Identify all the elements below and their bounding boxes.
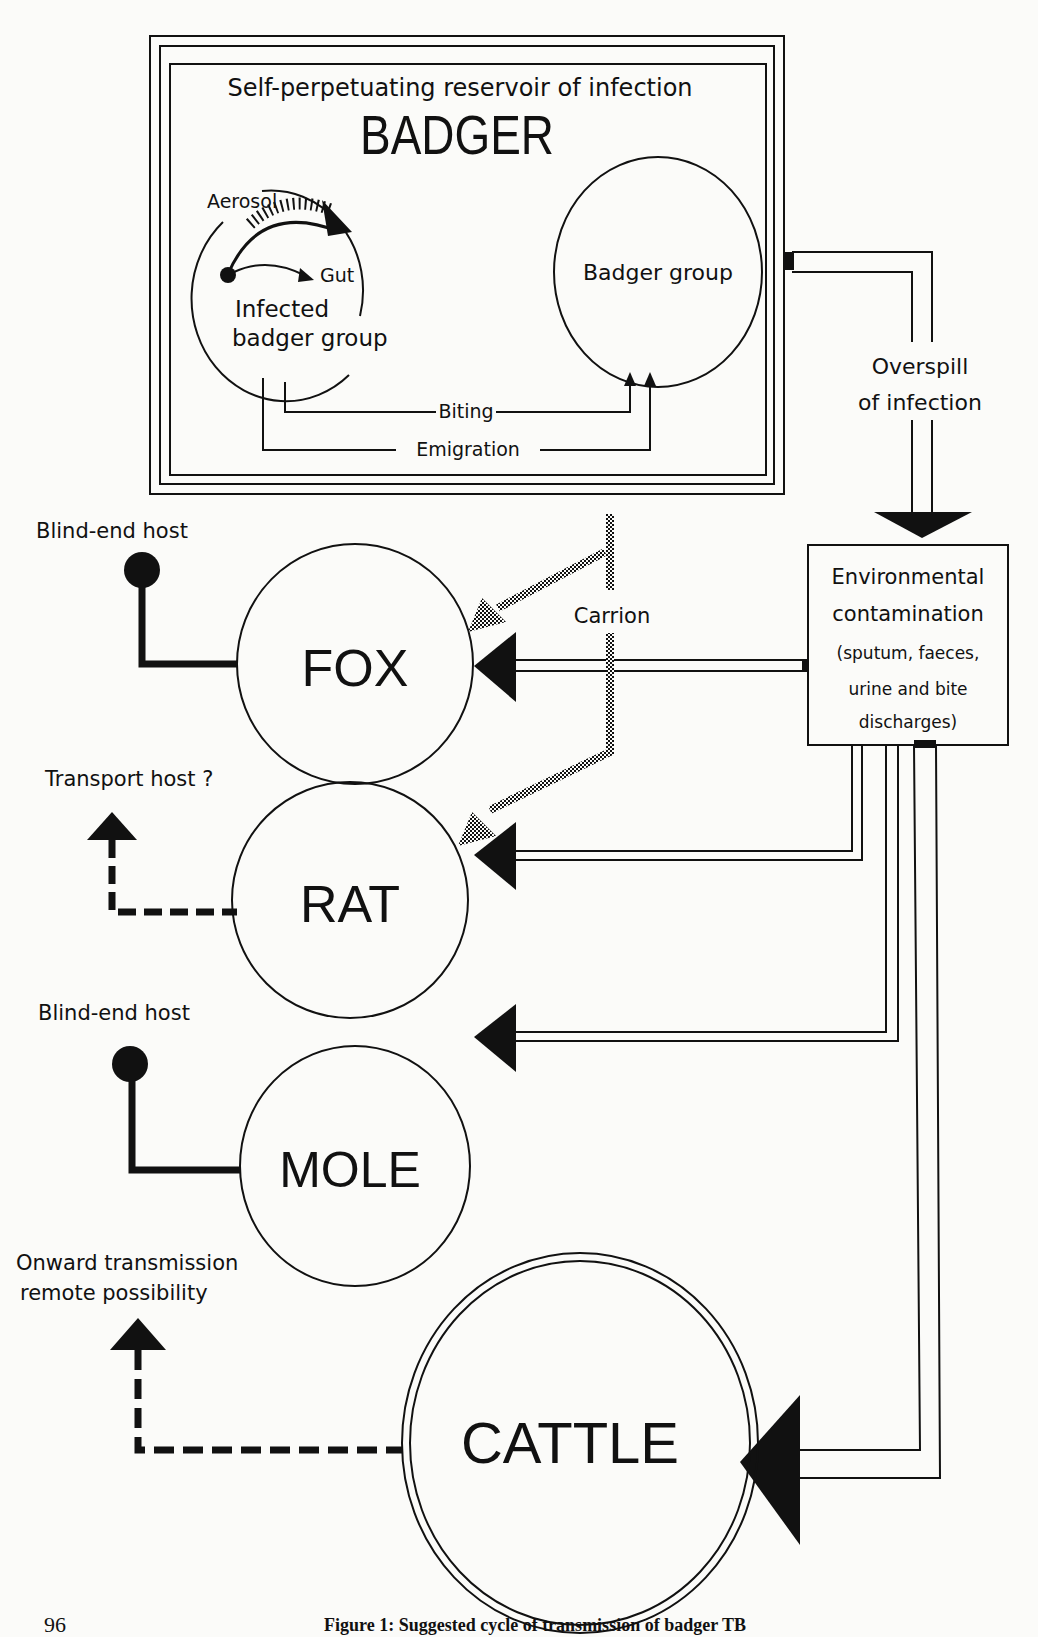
overspill-arrowhead	[874, 512, 972, 538]
env-to-fox-line	[516, 660, 808, 671]
emigration-label: Emigration	[416, 438, 520, 460]
badger-title: BADGER	[360, 104, 554, 166]
page-number: 96	[44, 1612, 66, 1637]
tb-transmission-diagram: Self-perpetuating reservoir of infection…	[0, 0, 1038, 1637]
fox-role-label: Blind-end host	[36, 519, 188, 543]
gut-arrow	[234, 265, 314, 282]
mole-label: MOLE	[279, 1142, 421, 1198]
env-label-2: contamination	[832, 602, 984, 626]
env-label-4: urine and bite	[848, 679, 967, 699]
overspill-arrow	[784, 252, 932, 512]
carrion-rat-arrowhead	[458, 812, 496, 846]
env-label-3: (sputum, faeces,	[837, 643, 980, 663]
fox-label: FOX	[302, 639, 409, 697]
cattle-onward-link	[138, 1350, 402, 1450]
env-to-mole-line	[516, 745, 898, 1041]
mole-role-label: Blind-end host	[38, 1001, 190, 1025]
aerosol-label: Aerosol	[207, 190, 277, 212]
mole-blind-end-link	[132, 1078, 240, 1170]
transport-up-arrow-icon	[87, 812, 137, 840]
fox-blind-end-link	[142, 585, 237, 664]
rat-label: RAT	[300, 875, 400, 933]
env-to-rat-line	[516, 745, 862, 860]
env-label-1: Environmental	[832, 565, 985, 589]
overspill-label-1: Overspill	[872, 354, 969, 379]
blind-end-fox-icon	[124, 552, 160, 588]
biting-label: Biting	[438, 400, 493, 422]
onward-up-arrow-icon	[110, 1318, 166, 1350]
blind-end-mole-icon	[112, 1046, 148, 1082]
infected-label-2: badger group	[232, 325, 388, 351]
figure-caption: Figure 1: Suggested cycle of transmissio…	[324, 1615, 746, 1635]
overspill-label-2: of infection	[858, 390, 982, 415]
biting-arrowhead	[624, 372, 636, 386]
fox-arrowhead	[474, 632, 516, 702]
rat-transport-link	[112, 840, 237, 912]
mole-arrowhead	[474, 1004, 516, 1072]
infection-source-dot	[220, 267, 236, 283]
reservoir-subtitle: Self-perpetuating reservoir of infection	[227, 74, 692, 102]
rat-role-label: Transport host ?	[44, 767, 213, 791]
cattle-role-label-2: remote possibility	[20, 1281, 208, 1305]
carrion-label: Carrion	[574, 604, 650, 628]
badger-group-label: Badger group	[583, 260, 733, 285]
infected-label-1: Infected	[235, 296, 329, 322]
cattle-role-label-1: Onward transmission	[16, 1251, 238, 1275]
emigration-arrowhead	[644, 372, 656, 386]
env-label-5: discharges)	[859, 712, 957, 732]
gut-label: Gut	[320, 264, 354, 286]
cattle-label: CATTLE	[461, 1410, 679, 1475]
